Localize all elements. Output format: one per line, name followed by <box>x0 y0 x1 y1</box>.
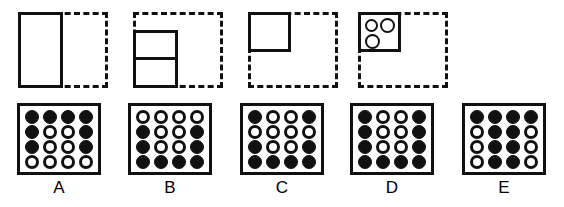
dot-grid <box>240 103 324 175</box>
filled-dot <box>488 155 502 169</box>
filled-dot <box>488 110 502 124</box>
grid-cell <box>283 125 300 139</box>
grid-cell <box>265 140 282 154</box>
grid-cell <box>410 110 427 124</box>
filled-dot <box>488 125 502 139</box>
empty-dot <box>248 125 262 139</box>
filled-dot <box>358 110 372 124</box>
option-label: A <box>17 178 101 198</box>
empty-dot <box>284 125 298 139</box>
grid-cell <box>505 140 522 154</box>
empty-dot <box>284 110 298 124</box>
filled-dot <box>79 140 93 154</box>
grid-cell <box>188 140 205 154</box>
empty-dot <box>266 140 280 154</box>
filled-dot <box>248 110 262 124</box>
empty-dot <box>524 140 538 154</box>
grid-cell <box>265 110 282 124</box>
prompt-panel-3 <box>248 12 338 88</box>
empty-dot <box>266 125 280 139</box>
answer-option-c[interactable]: C <box>240 103 324 198</box>
empty-dot <box>43 155 57 169</box>
filled-dot <box>302 155 316 169</box>
empty-dot <box>470 125 484 139</box>
grid-cell <box>42 110 59 124</box>
grid-cell <box>505 125 522 139</box>
empty-dot <box>43 140 57 154</box>
empty-dot <box>376 110 390 124</box>
grid-cell <box>357 155 374 169</box>
filled-dot <box>302 110 316 124</box>
empty-dot <box>79 155 93 169</box>
grid-cell <box>24 125 41 139</box>
grid-cell <box>410 140 427 154</box>
grid-cell <box>469 140 486 154</box>
empty-dot <box>154 110 168 124</box>
empty-dot <box>284 140 298 154</box>
prompt-panel-4 <box>358 12 448 88</box>
grid-cell <box>135 155 152 169</box>
grid-cell <box>393 125 410 139</box>
grid-cell <box>410 125 427 139</box>
filled-dot <box>190 125 204 139</box>
solid-square-top-left <box>248 12 291 52</box>
grid-cell <box>487 125 504 139</box>
ring-circle-icon <box>365 34 380 49</box>
filled-dot <box>25 140 39 154</box>
answer-option-d[interactable]: D <box>350 103 434 198</box>
filled-dot <box>136 155 150 169</box>
grid-cell <box>42 125 59 139</box>
empty-dot <box>190 110 204 124</box>
grid-cell <box>188 110 205 124</box>
grid-cell <box>265 155 282 169</box>
grid-cell <box>283 155 300 169</box>
filled-dot <box>248 155 262 169</box>
grid-cell <box>60 140 77 154</box>
empty-dot <box>524 125 538 139</box>
filled-dot <box>79 125 93 139</box>
grid-cell <box>135 140 152 154</box>
filled-dot <box>376 155 390 169</box>
answer-option-b[interactable]: B <box>128 103 212 198</box>
empty-dot <box>154 125 168 139</box>
grid-cell <box>42 140 59 154</box>
ring-circle-icon <box>380 18 395 33</box>
grid-cell <box>153 155 170 169</box>
empty-dot <box>394 125 408 139</box>
grid-cell <box>77 110 94 124</box>
filled-dot <box>412 125 426 139</box>
grid-cell <box>153 140 170 154</box>
filled-dot <box>506 110 520 124</box>
dot-grid <box>17 103 101 175</box>
empty-dot <box>266 110 280 124</box>
answer-option-a[interactable]: A <box>17 103 101 198</box>
filled-dot <box>266 155 280 169</box>
filled-dot <box>79 110 93 124</box>
grid-cell <box>247 155 264 169</box>
empty-dot <box>376 125 390 139</box>
grid-cell <box>505 110 522 124</box>
ring-circle-icon <box>365 19 378 32</box>
grid-cell <box>135 125 152 139</box>
grid-cell <box>410 155 427 169</box>
empty-dot <box>154 140 168 154</box>
solid-rectangle-bottom-left <box>133 30 178 88</box>
grid-cell <box>24 110 41 124</box>
grid-cell <box>357 125 374 139</box>
filled-dot <box>412 140 426 154</box>
grid-cell <box>522 110 539 124</box>
filled-dot <box>248 140 262 154</box>
filled-dot <box>412 155 426 169</box>
filled-dot <box>43 110 57 124</box>
grid-cell <box>188 155 205 169</box>
filled-dot <box>394 155 408 169</box>
grid-cell <box>283 110 300 124</box>
empty-dot <box>376 140 390 154</box>
grid-cell <box>393 110 410 124</box>
grid-cell <box>300 125 317 139</box>
empty-dot <box>61 140 75 154</box>
grid-cell <box>522 155 539 169</box>
grid-cell <box>60 125 77 139</box>
option-label: E <box>462 178 546 198</box>
answer-option-e[interactable]: E <box>462 103 546 198</box>
